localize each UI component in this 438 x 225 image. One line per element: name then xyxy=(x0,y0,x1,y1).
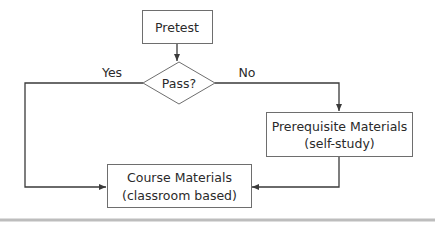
node-pretest: Pretest xyxy=(143,11,213,44)
node-prerequisite: Prerequisite Materials (self-study) xyxy=(267,113,413,157)
edge-prerequisite-to-course xyxy=(252,157,339,187)
node-prerequisite-line1: Prerequisite Materials xyxy=(272,119,408,134)
node-course: Course Materials (classroom based) xyxy=(108,165,252,208)
node-decision: Pass? xyxy=(143,62,215,104)
edge-label-no: No xyxy=(239,65,256,80)
node-prerequisite-line2: (self-study) xyxy=(304,136,374,151)
node-course-line2: (classroom based) xyxy=(122,188,237,203)
edge-label-yes: Yes xyxy=(101,65,122,80)
node-pretest-label: Pretest xyxy=(155,20,199,35)
node-decision-label: Pass? xyxy=(162,76,196,91)
flowchart: Pretest Pass? Yes No Prerequisite Materi… xyxy=(0,0,438,225)
node-course-line1: Course Materials xyxy=(127,170,232,185)
edge-no-to-prerequisite xyxy=(215,83,339,111)
